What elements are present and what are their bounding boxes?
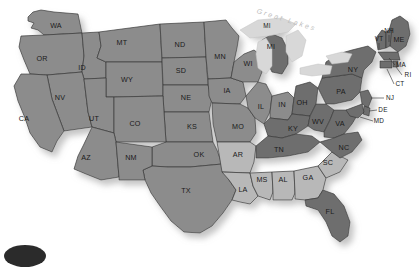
state-label-SD: SD (176, 66, 186, 75)
state-label-GA: GA (303, 173, 314, 182)
state-label-IL: IL (258, 102, 264, 111)
state-label-NJ: NJ (386, 94, 394, 101)
state-label-CO: CO (129, 119, 140, 128)
state-label-UT: UT (89, 114, 99, 123)
lake-huron (286, 30, 306, 62)
state-label-IA: IA (223, 86, 230, 95)
state-label-AR: AR (233, 150, 243, 159)
state-label-OK: OK (194, 150, 205, 159)
state-label-VT: VT (375, 35, 384, 42)
state-label-ME: ME (393, 35, 404, 44)
state-label-PA: PA (336, 87, 345, 96)
leader-DE (369, 110, 377, 111)
state-label-MT: MT (117, 38, 128, 47)
state-label-MI: MI (267, 42, 275, 51)
state-label-MA: MA (396, 61, 407, 68)
landmass-group (14, 10, 410, 242)
state-label-NV: NV (55, 93, 65, 102)
state-label-AL: AL (278, 175, 287, 184)
state-OK[interactable] (152, 142, 222, 167)
state-label-NE: NE (181, 93, 191, 102)
leader-CT (387, 69, 394, 84)
state-WY[interactable] (106, 62, 163, 97)
state-label-NC: NC (339, 143, 350, 152)
state-label-WI: WI (243, 59, 252, 68)
state-MA[interactable] (378, 52, 400, 60)
state-TX[interactable] (143, 164, 236, 233)
state-label-RI: RI (405, 71, 412, 78)
state-TN[interactable] (256, 134, 320, 158)
state-label-MD: MD (374, 117, 385, 124)
state-label-ND: ND (175, 40, 186, 49)
state-label-MN: MN (214, 52, 226, 61)
state-label-FL: FL (326, 207, 335, 216)
state-label-IN: IN (278, 100, 286, 109)
state-label-WA: WA (50, 21, 62, 30)
state-label-WV: WV (312, 117, 324, 126)
corner-ellipse (4, 245, 46, 267)
state-label-MO: MO (232, 122, 244, 131)
state-label-NY: NY (348, 65, 358, 74)
state-label-TX: TX (181, 186, 191, 195)
state-label-SC: SC (323, 158, 333, 167)
state-label-NM: NM (125, 153, 137, 162)
state-label-KY: KY (288, 124, 298, 133)
state-CT[interactable] (380, 61, 392, 68)
state-MT[interactable] (97, 24, 162, 62)
state-OR[interactable] (19, 33, 84, 75)
state-label-MS: MS (256, 175, 267, 184)
state-label-WY: WY (121, 75, 133, 84)
state-label-VA: VA (335, 119, 344, 128)
state-label-KS: KS (187, 122, 197, 131)
leader-MD (360, 117, 373, 121)
state-label-CT: CT (396, 80, 405, 87)
state-label-OH: OH (296, 98, 307, 107)
leader-RI (396, 67, 402, 75)
state-label-MI: MI (263, 22, 271, 29)
state-label-DE: DE (378, 106, 387, 113)
state-label-OR: OR (36, 54, 47, 63)
state-label-CA: CA (19, 114, 29, 123)
state-label-TN: TN (274, 145, 284, 154)
state-label-ID: ID (78, 63, 86, 72)
state-label-AZ: AZ (81, 153, 91, 162)
state-label-LA: LA (238, 185, 247, 194)
lake-erie (300, 64, 332, 76)
state-label-NH: NH (384, 27, 394, 34)
